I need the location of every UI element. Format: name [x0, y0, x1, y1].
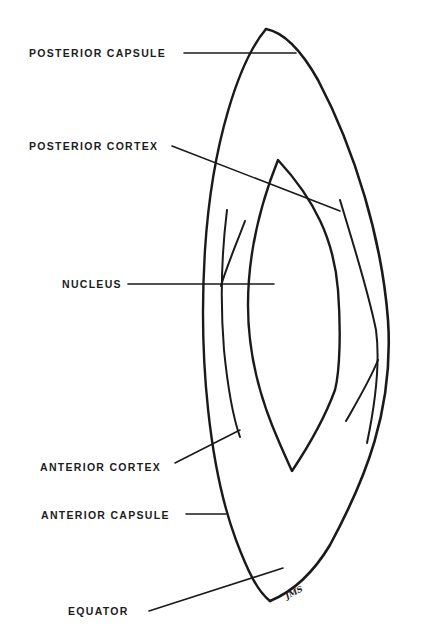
nucleus-outline [248, 160, 340, 471]
label-equator: EQUATOR [68, 605, 129, 617]
leader-anterior-cortex [175, 430, 240, 463]
anterior-capsule-outline [203, 29, 270, 601]
lens-diagram [0, 0, 443, 637]
label-posterior-cortex: POSTERIOR CORTEX [29, 140, 158, 152]
label-posterior-capsule: POSTERIOR CAPSULE [29, 47, 166, 59]
anterior-cortex-line-outer [222, 210, 240, 437]
label-anterior-capsule: ANTERIOR CAPSULE [41, 509, 170, 521]
posterior-capsule-outline [266, 29, 389, 601]
label-nucleus: NUCLEUS [62, 278, 122, 290]
leader-equator [149, 568, 283, 611]
leader-posterior-cortex [172, 146, 340, 211]
posterior-cortex-line [340, 200, 378, 443]
label-anterior-cortex: ANTERIOR CORTEX [40, 461, 161, 473]
